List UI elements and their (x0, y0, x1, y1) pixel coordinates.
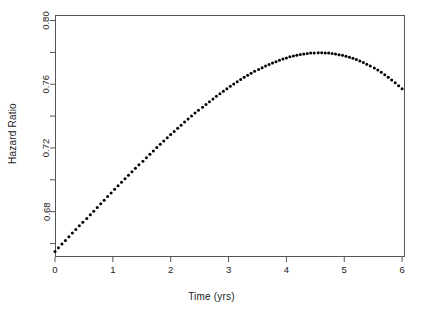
data-point (257, 68, 260, 71)
y-tick-label: 0.72 (41, 139, 52, 158)
data-point (180, 124, 183, 127)
data-point (57, 246, 60, 249)
data-point (113, 188, 116, 191)
data-point (190, 115, 193, 118)
data-point (390, 78, 393, 81)
data-point (117, 184, 120, 187)
x-axis-title: Time (yrs) (0, 291, 423, 302)
data-point (239, 78, 242, 81)
data-point (85, 217, 88, 220)
data-point (401, 87, 404, 90)
plot-box-border (56, 16, 405, 257)
data-point (383, 73, 386, 76)
data-point (148, 153, 151, 156)
data-point (299, 53, 302, 56)
data-point (271, 61, 274, 64)
data-point (309, 52, 312, 55)
data-point (201, 106, 204, 109)
data-point (348, 56, 351, 59)
data-point (274, 60, 277, 63)
data-point (341, 54, 344, 57)
data-point (211, 98, 214, 101)
plot-canvas: 0123456 0.680.720.760.80 (0, 0, 423, 313)
data-point (60, 243, 63, 246)
data-point (394, 81, 397, 84)
data-point (338, 53, 341, 56)
data-point (78, 224, 81, 227)
data-point (253, 70, 256, 73)
data-point (324, 51, 327, 54)
data-point (268, 63, 271, 66)
data-point (103, 199, 106, 202)
data-point (159, 143, 162, 146)
y-axis-title: Hazard Ratio (7, 84, 18, 184)
data-point (215, 95, 218, 98)
data-point (204, 103, 207, 106)
data-point (187, 117, 190, 120)
data-point (120, 181, 123, 184)
x-tick-label: 6 (399, 264, 404, 275)
data-point (67, 235, 70, 238)
data-point (169, 133, 172, 136)
data-point (134, 167, 137, 170)
data-point (197, 109, 200, 112)
x-axis-tick-labels: 0123456 (52, 264, 404, 275)
x-tick-label: 4 (284, 264, 289, 275)
y-tick-label: 0.76 (41, 75, 52, 94)
data-point (285, 56, 288, 59)
y-tick-label: 0.68 (41, 202, 52, 221)
data-point (355, 58, 358, 61)
x-tick-label: 5 (342, 264, 347, 275)
data-point (166, 136, 169, 139)
data-point (317, 51, 320, 54)
data-point (145, 156, 148, 159)
data-point (130, 170, 133, 173)
data-point (127, 174, 130, 177)
data-point (71, 232, 74, 235)
data-point (295, 54, 298, 57)
data-point (225, 87, 228, 90)
data-point (331, 52, 334, 55)
data-point (306, 52, 309, 55)
data-point (281, 58, 284, 61)
data-point (124, 177, 127, 180)
data-point (387, 76, 390, 79)
data-point (243, 76, 246, 79)
data-point (362, 61, 365, 64)
data-point-markers (54, 51, 404, 253)
data-point (208, 100, 211, 103)
x-tick-label: 2 (168, 264, 173, 275)
data-point (246, 74, 249, 77)
data-point (351, 57, 354, 60)
data-point (302, 53, 305, 56)
x-axis-ticks (55, 257, 402, 262)
data-point (264, 65, 267, 68)
data-point (236, 80, 239, 83)
data-point (380, 71, 383, 74)
x-tick-label: 0 (52, 264, 57, 275)
data-point (369, 65, 372, 68)
data-point (89, 213, 92, 216)
data-point (358, 60, 361, 63)
data-point (327, 52, 330, 55)
data-point (152, 149, 155, 152)
data-point (176, 127, 179, 130)
data-point (74, 228, 77, 231)
data-point (397, 84, 400, 87)
data-point (92, 210, 95, 213)
data-point (183, 120, 186, 123)
data-point (54, 250, 57, 253)
data-point (155, 146, 158, 149)
data-point (229, 85, 232, 88)
data-point (194, 112, 197, 115)
data-point (261, 66, 264, 69)
data-point (64, 239, 67, 242)
data-point (173, 130, 176, 133)
data-point (96, 206, 99, 209)
data-point (334, 53, 337, 56)
data-point (106, 195, 109, 198)
y-axis-tick-labels: 0.680.720.760.80 (41, 11, 52, 221)
hazard-ratio-scatter-figure: 0123456 0.680.720.760.80 Time (yrs) Haza… (0, 0, 423, 313)
data-point (365, 63, 368, 66)
data-point (141, 160, 144, 163)
